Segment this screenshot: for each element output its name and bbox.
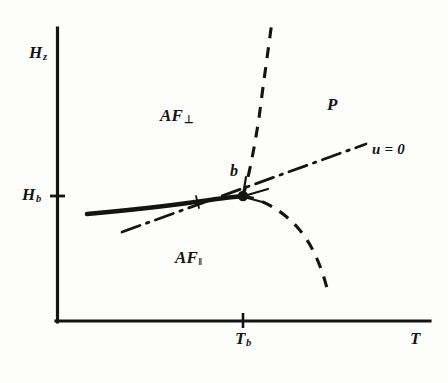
region-label-af-parallel: AF‖ (175, 249, 202, 268)
x-tick-label-subscript: b (246, 337, 251, 348)
bicritical-point-label-text: b (230, 162, 238, 179)
y-axis-tick-label-hb: Hb (22, 186, 41, 205)
af-perp-to-para-boundary (243, 21, 272, 196)
paramagnetic-text: P (327, 95, 338, 114)
spin-flop-first-order-line (87, 196, 243, 214)
axes-group (50, 28, 430, 328)
region-label-paramagnetic: P (327, 96, 338, 113)
x-axis-label: T (410, 330, 421, 347)
af-perp-text: AF (160, 106, 183, 125)
x-tick-label-text: T (235, 329, 246, 348)
x-axis-label-text: T (410, 329, 421, 348)
af-para-to-para-boundary (243, 196, 328, 292)
af-para-text: AF (175, 248, 198, 267)
y-axis-label-subscript: z (43, 51, 47, 62)
af-para-subscript: ‖ (199, 256, 203, 267)
phase-diagram-canvas (0, 0, 448, 383)
y-axis-label-text: H (29, 43, 42, 62)
phase-diagram-figure: Hz Hb AF⊥ AF‖ P b u = 0 Tb T (0, 0, 448, 383)
y-tick-label-subscript: b (36, 193, 41, 204)
y-axis-label: Hz (29, 44, 47, 63)
bicritical-point-marker (238, 191, 248, 201)
region-label-af-perpendicular: AF⊥ (160, 107, 194, 126)
y-tick-label-text: H (22, 185, 35, 204)
bicritical-point-label: b (230, 163, 238, 179)
u-equals-zero-label: u = 0 (372, 142, 405, 157)
af-perp-subscript: ⊥ (184, 114, 194, 125)
x-axis-tick-label-tb: Tb (235, 330, 252, 349)
u-equals-zero-label-text: u = 0 (372, 141, 405, 157)
